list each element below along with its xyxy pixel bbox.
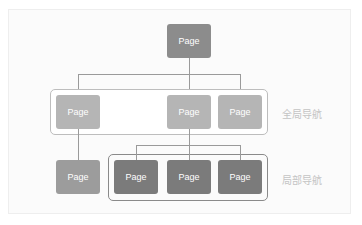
global-nav-page-3: Page [218, 95, 262, 129]
connector-local-bus [136, 145, 241, 146]
node-label: Page [125, 172, 146, 182]
local-nav-page-3: Page [218, 160, 262, 194]
node-label: Page [229, 107, 250, 117]
connector-global1-to-standalone [78, 129, 79, 160]
local-nav-label: 局部导航 [282, 172, 322, 187]
node-label: Page [178, 172, 199, 182]
global-nav-page-2: Page [167, 95, 211, 129]
node-label: Page [178, 36, 199, 46]
standalone-page-node: Page [56, 160, 100, 194]
global-nav-page-1: Page [56, 95, 100, 129]
node-label: Page [229, 172, 250, 182]
node-label: Page [67, 107, 88, 117]
local-nav-page-2: Page [167, 160, 211, 194]
local-nav-page-1: Page [114, 160, 158, 194]
root-page-node: Page [167, 24, 211, 58]
connector-to-local-1 [136, 145, 137, 160]
connector-global-bus [78, 74, 241, 75]
node-label: Page [178, 107, 199, 117]
node-label: Page [67, 172, 88, 182]
connector-to-local-3 [240, 145, 241, 160]
global-nav-label: 全局导航 [282, 106, 322, 121]
